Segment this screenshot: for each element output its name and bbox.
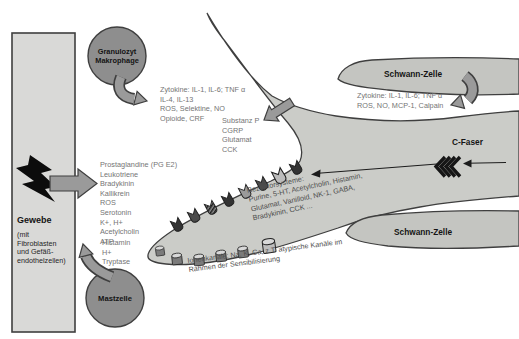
- tissue-title: Gewebe: [17, 215, 52, 225]
- granulocyte-macrophage-label: Granulozyt Makrophage: [87, 47, 147, 65]
- pain-sensitization-diagram: Granulozyt Makrophage Zytokine: IL-1, IL…: [0, 0, 519, 339]
- mastcell-mediators-text: Histamin H+ Tryptase: [102, 238, 162, 267]
- schwann-mediators-text: Zytokine: IL-1, IL-6; TNF α ROS, NO, MCP…: [357, 91, 497, 111]
- schwann-cell-bottom-label: Schwann-Zelle: [394, 227, 452, 237]
- tissue-subtitle: (mit Fibroblasten und Gefäß- endothelzel…: [17, 231, 66, 265]
- schwann-cell-top-label: Schwann-Zelle: [384, 69, 442, 79]
- terminal-mediators-text: Substanz P CGRP Glutamat CCK: [222, 116, 282, 154]
- c-fiber-label: C-Faser: [452, 137, 483, 147]
- tissue-mediators-text: Prostaglandine (PG E2) Leukotriene Brady…: [100, 160, 210, 246]
- mast-cell-label: Mastzelle: [85, 294, 145, 303]
- diagram-canvas: [0, 0, 519, 339]
- ion-channel-icon: [171, 253, 182, 265]
- arrow-granulocyte-to-cytokines: [119, 77, 147, 105]
